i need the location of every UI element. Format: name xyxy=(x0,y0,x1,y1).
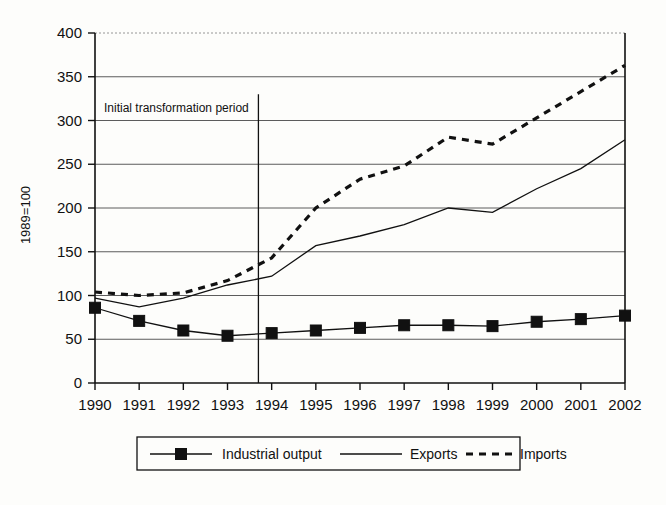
data-point-industrial-output-1997 xyxy=(399,320,410,331)
x-tick-label-1990: 1990 xyxy=(78,396,111,413)
chart-background xyxy=(0,0,666,505)
x-tick-label-1996: 1996 xyxy=(343,396,376,413)
y-axis-title: 1989=100 xyxy=(18,186,33,244)
data-point-industrial-output-1995 xyxy=(310,325,321,336)
y-tick-label-0: 0 xyxy=(74,374,82,391)
y-tick-label-50: 50 xyxy=(65,330,82,347)
line-chart: 050100150200250300350400 199019911992199… xyxy=(0,0,666,505)
y-tick-label-350: 350 xyxy=(57,68,82,85)
data-point-industrial-output-2000 xyxy=(531,316,542,327)
x-tick-label-1999: 1999 xyxy=(476,396,509,413)
y-tick-label-100: 100 xyxy=(57,287,82,304)
x-tick-label-1997: 1997 xyxy=(387,396,420,413)
data-point-industrial-output-1994 xyxy=(266,328,277,339)
x-tick-label-1991: 1991 xyxy=(122,396,155,413)
y-tick-label-250: 250 xyxy=(57,155,82,172)
annotation-label: Initial transformation period xyxy=(104,101,249,115)
x-tick-label-2000: 2000 xyxy=(520,396,553,413)
legend-label-industrial-output: Industrial output xyxy=(222,446,322,462)
x-tick-label-1994: 1994 xyxy=(255,396,288,413)
data-point-industrial-output-2001 xyxy=(575,314,586,325)
y-tick-label-400: 400 xyxy=(57,24,82,41)
data-point-industrial-output-1992 xyxy=(178,325,189,336)
data-point-industrial-output-1999 xyxy=(487,321,498,332)
data-point-industrial-output-1996 xyxy=(355,322,366,333)
x-tick-label-2002: 2002 xyxy=(608,396,641,413)
data-point-industrial-output-1998 xyxy=(443,320,454,331)
y-tick-label-200: 200 xyxy=(57,199,82,216)
x-tick-label-2001: 2001 xyxy=(564,396,597,413)
chart-figure: 050100150200250300350400 199019911992199… xyxy=(0,0,666,505)
legend-label-imports: Imports xyxy=(520,446,567,462)
legend-label-exports: Exports xyxy=(410,446,457,462)
x-tick-label-1998: 1998 xyxy=(432,396,465,413)
y-tick-label-150: 150 xyxy=(57,243,82,260)
y-tick-label-300: 300 xyxy=(57,112,82,129)
data-point-industrial-output-1990 xyxy=(90,302,101,313)
legend-marker-industrial-output xyxy=(176,449,187,460)
data-point-industrial-output-2002 xyxy=(620,310,631,321)
x-tick-label-1993: 1993 xyxy=(211,396,244,413)
data-point-industrial-output-1991 xyxy=(134,315,145,326)
data-point-industrial-output-1993 xyxy=(222,330,233,341)
x-tick-label-1995: 1995 xyxy=(299,396,332,413)
x-tick-label-1992: 1992 xyxy=(167,396,200,413)
